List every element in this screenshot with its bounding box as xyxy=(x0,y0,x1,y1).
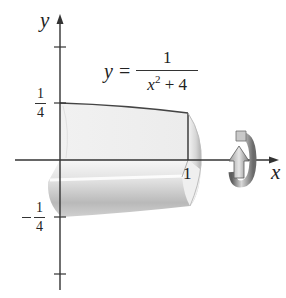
minus-sign xyxy=(22,217,31,218)
x-axis-label: x xyxy=(271,162,280,183)
equation-fraction: 1 x2 + 4 xyxy=(136,48,198,95)
rotation-arrow-icon xyxy=(229,131,253,184)
y-tick-label-neg-quarter: 1 4 xyxy=(22,201,45,234)
solid-upper-face xyxy=(60,103,188,160)
solid-of-revolution-diagram: y x 1 1 4 1 4 y = 1 x2 + 4 xyxy=(0,0,286,298)
diagram-canvas xyxy=(0,0,286,298)
x-tick-label-1: 1 xyxy=(183,165,192,182)
y-tick-label-quarter: 1 4 xyxy=(35,87,46,120)
y-axis-arrowhead xyxy=(57,14,64,24)
curve-equation-label: y = 1 x2 + 4 xyxy=(104,48,198,95)
y-axis-label: y xyxy=(40,10,49,31)
solid-lower-surface xyxy=(48,160,201,217)
